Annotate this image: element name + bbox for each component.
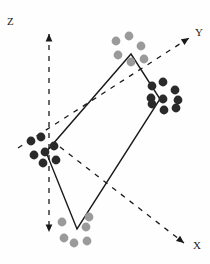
quadrilateral-outline [46, 54, 160, 229]
data-point [137, 42, 146, 51]
data-point [83, 237, 92, 246]
data-point [174, 96, 183, 105]
data-point [148, 100, 157, 109]
axis-line-x [60, 147, 184, 243]
diagram-svg [0, 0, 210, 264]
data-point [70, 239, 79, 248]
axis-label-y: Y [195, 27, 203, 38]
arrowhead-z-start [46, 34, 53, 42]
data-point [160, 106, 169, 115]
data-point [58, 218, 67, 227]
data-point [125, 32, 134, 41]
data-point [82, 223, 91, 232]
data-point [60, 234, 69, 243]
arrowhead-x-end [176, 236, 184, 243]
axis-label-x: X [193, 240, 201, 251]
data-point [50, 142, 59, 151]
data-point [140, 55, 149, 64]
top-cluster [112, 32, 149, 67]
arrowhead-z-end [46, 225, 53, 233]
data-point [85, 213, 94, 222]
left-cluster [27, 133, 61, 168]
data-point [52, 156, 61, 165]
data-point [39, 159, 48, 168]
data-point [114, 51, 123, 60]
data-point [27, 137, 36, 146]
figure-canvas: Z Y X [0, 0, 210, 264]
arrowhead-y-end [181, 38, 189, 45]
axis-label-z: Z [7, 16, 14, 27]
bottom-cluster [58, 213, 94, 248]
data-point [112, 37, 121, 46]
data-point [171, 86, 180, 95]
data-point [148, 82, 157, 91]
data-point [37, 133, 46, 142]
point-clusters-layer [27, 32, 183, 248]
data-point [41, 148, 50, 157]
right-cluster [147, 78, 183, 115]
data-point [30, 151, 39, 160]
quadrilateral-layer [46, 54, 160, 229]
data-point [172, 104, 181, 113]
data-point [159, 95, 168, 104]
axis-line-y [18, 38, 189, 148]
data-point [127, 58, 136, 67]
data-point [159, 78, 168, 87]
